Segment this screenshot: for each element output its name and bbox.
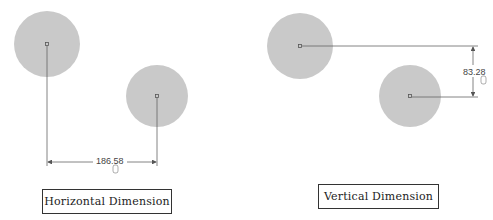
dimension-value[interactable]: 83.28 <box>463 67 486 77</box>
vertical-dimension-example: 83.28 <box>267 13 488 127</box>
dimension-value[interactable]: 186.58 <box>96 156 124 166</box>
caption-text: Horizontal Dimension <box>44 195 170 208</box>
circle-2[interactable] <box>379 65 441 127</box>
horizontal-dimension-example: 186.58 <box>14 11 188 173</box>
vertical-dimension-caption: Vertical Dimension <box>318 184 439 209</box>
horizontal-dimension-caption: Horizontal Dimension <box>42 189 172 214</box>
tolerance-badge-icon <box>481 76 486 84</box>
caption-text: Vertical Dimension <box>324 190 433 203</box>
